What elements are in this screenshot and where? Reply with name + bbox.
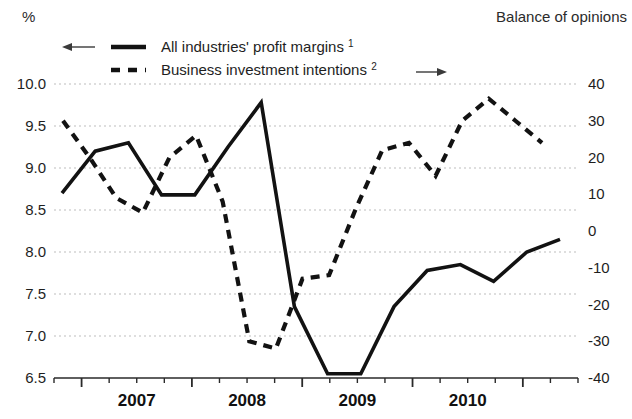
y-axis-left-tick-label: 6.5	[25, 369, 46, 386]
legend-label-profit-margins: All industries' profit margins 1	[161, 38, 354, 55]
y-axis-right-labels: 403020100-10-20-30-40	[588, 75, 610, 386]
right-axis-title: Balance of opinions	[496, 8, 627, 25]
x-axis-year-labels: 2007200820092010	[118, 391, 487, 410]
y-axis-right-tick-label: 20	[588, 149, 605, 166]
chart-container: 10.09.59.08.58.07.57.06.5 403020100-10-2…	[0, 0, 632, 419]
y-axis-left-tick-label: 9.0	[25, 159, 46, 176]
y-axis-left-tick-label: 9.5	[25, 117, 46, 134]
x-axis-ticks	[54, 378, 578, 387]
x-axis-year-label: 2007	[118, 391, 156, 410]
y-axis-right-tick-label: -30	[588, 332, 610, 349]
legend-footnote-marker: 1	[348, 38, 354, 49]
y-axis-left-tick-label: 8.0	[25, 243, 46, 260]
dual-axis-line-chart: 10.09.59.08.58.07.57.06.5 403020100-10-2…	[0, 0, 632, 419]
series-line-profit-margins	[62, 102, 560, 373]
legend-arrow-left-icon	[62, 43, 95, 51]
chart-legend: All industries' profit margins 1 Busines…	[62, 38, 447, 78]
y-axis-right-tick-label: 0	[588, 222, 596, 239]
legend-arrow-right-icon	[416, 68, 447, 76]
legend-footnote-marker: 2	[371, 61, 377, 72]
x-axis-year-label: 2010	[449, 391, 487, 410]
y-axis-right-tick-label: -40	[588, 369, 610, 386]
legend-item-investment-intentions: Business investment intentions 2	[111, 61, 447, 78]
y-axis-left-labels: 10.09.59.08.58.07.57.06.5	[17, 75, 46, 386]
y-axis-left-tick-label: 7.0	[25, 327, 46, 344]
y-axis-right-tick-label: -10	[588, 259, 610, 276]
y-axis-right-tick-label: 30	[588, 112, 605, 129]
legend-item-profit-margins: All industries' profit margins 1	[62, 38, 354, 55]
y-axis-left-tick-label: 10.0	[17, 75, 46, 92]
series-layer	[62, 99, 560, 374]
x-axis-year-label: 2008	[228, 391, 266, 410]
legend-label-investment-intentions: Business investment intentions 2	[161, 61, 377, 78]
y-axis-left-tick-label: 8.5	[25, 201, 46, 218]
y-axis-right-tick-label: 40	[588, 75, 605, 92]
left-axis-title: %	[22, 8, 35, 25]
x-axis-year-label: 2009	[338, 391, 376, 410]
y-axis-left-tick-label: 7.5	[25, 285, 46, 302]
gridlines	[54, 84, 578, 336]
series-line-investment-intentions	[63, 99, 542, 349]
y-axis-right-tick-label: -20	[588, 296, 610, 313]
y-axis-right-tick-label: 10	[588, 185, 605, 202]
